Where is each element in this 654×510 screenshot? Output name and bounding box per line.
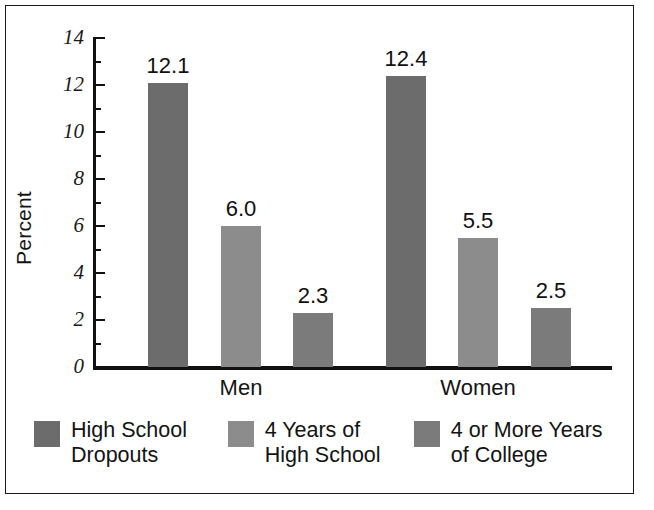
legend-item: High School Dropouts xyxy=(34,418,228,469)
bar: 2.3 xyxy=(293,313,333,367)
x-axis-category-label: Men xyxy=(220,376,263,400)
bar-value-label: 12.4 xyxy=(385,48,428,70)
bar-rect xyxy=(293,313,333,367)
bar-value-label: 2.3 xyxy=(298,285,329,307)
chart-legend: High School Dropouts4 Years of High Scho… xyxy=(34,418,614,469)
bar-value-label: 2.5 xyxy=(536,280,567,302)
legend-swatch xyxy=(414,421,440,447)
bars-layer: 12.16.02.312.45.52.5 xyxy=(0,0,654,367)
chart-figure: Percent 02468101214 12.16.02.312.45.52.5… xyxy=(0,0,654,510)
bar: 12.4 xyxy=(386,76,426,367)
legend-item: 4 or More Years of College xyxy=(414,418,614,469)
bar-value-label: 12.1 xyxy=(147,55,190,77)
bar: 12.1 xyxy=(148,83,188,367)
bar-rect xyxy=(458,238,498,367)
legend-label: 4 or More Years of College xyxy=(451,418,603,469)
bar-rect xyxy=(531,308,571,367)
x-axis-category-label: Women xyxy=(440,376,515,400)
bar-rect xyxy=(386,76,426,367)
legend-label: High School Dropouts xyxy=(71,418,187,469)
legend-item: 4 Years of High School xyxy=(228,418,414,469)
legend-swatch xyxy=(34,421,60,447)
bar: 5.5 xyxy=(458,238,498,367)
bar-rect xyxy=(221,226,261,367)
bar-value-label: 5.5 xyxy=(463,210,494,232)
legend-swatch xyxy=(228,421,254,447)
bar: 2.5 xyxy=(531,308,571,367)
bar: 6.0 xyxy=(221,226,261,367)
bar-rect xyxy=(148,83,188,367)
bar-value-label: 6.0 xyxy=(226,198,257,220)
legend-label: 4 Years of High School xyxy=(265,418,381,469)
